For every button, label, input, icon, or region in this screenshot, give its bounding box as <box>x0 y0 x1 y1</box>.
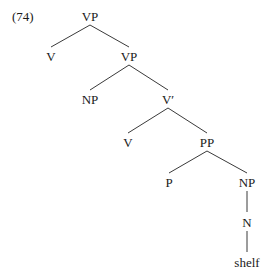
node-vp-root: VP <box>82 9 99 24</box>
node-n: N <box>242 215 252 230</box>
node-pp: PP <box>200 135 214 150</box>
tree-edge-vp1-v1 <box>51 25 90 47</box>
tree-edge-pp-np2 <box>207 151 247 173</box>
syntax-tree: (74) VP V VP NP V′ V PP P NP N shelf <box>0 0 271 270</box>
tree-edge-vp2-vbar <box>129 65 168 90</box>
node-v: V <box>46 49 56 64</box>
tree-edges <box>51 25 247 252</box>
node-p: P <box>165 175 172 190</box>
tree-edge-vbar-v2 <box>128 108 168 133</box>
tree-edge-pp-p <box>169 151 207 173</box>
node-v-bar: V′ <box>162 92 174 107</box>
node-np: NP <box>82 92 99 107</box>
example-number: (74) <box>12 9 34 24</box>
node-word-shelf: shelf <box>234 255 260 270</box>
node-v-head: V <box>123 135 133 150</box>
node-np-object: NP <box>239 175 256 190</box>
tree-edge-vp2-np1 <box>90 65 129 90</box>
tree-nodes: VP V VP NP V′ V PP P NP N shelf <box>46 9 260 270</box>
node-vp: VP <box>121 49 138 64</box>
tree-edge-vbar-pp <box>168 108 207 133</box>
tree-edge-vp1-vp2 <box>90 25 129 47</box>
